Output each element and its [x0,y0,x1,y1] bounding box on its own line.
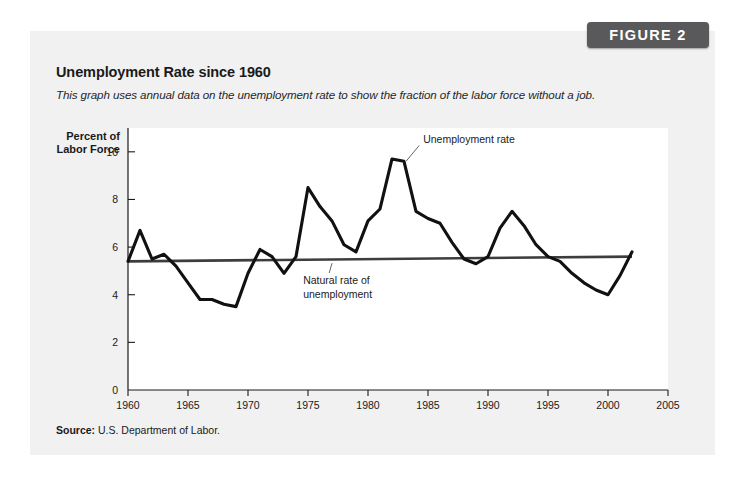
annotation-natural-rate-line1: Natural rate of [303,274,370,286]
x-tick-label-1965: 1965 [176,399,200,411]
x-tick-label-1985: 1985 [416,399,440,411]
x-tick-label-1960: 1960 [116,399,140,411]
x-tick-label-1970: 1970 [236,399,260,411]
y-axis-title-line1: Percent of [66,130,120,142]
unemployment-line-chart: 1960196519701975198019851990199520002005… [0,0,747,483]
x-tick-label-1975: 1975 [296,399,320,411]
x-tick-label-2000: 2000 [596,399,620,411]
y-tick-label-8: 8 [112,193,118,205]
x-tick-label-1995: 1995 [536,399,560,411]
x-tick-label-2005: 2005 [656,399,680,411]
y-axis-title-line2: Labor Force [56,143,120,155]
annotation-unemployment-rate: Unemployment rate [423,133,515,145]
y-tick-label-2: 2 [112,336,118,348]
y-tick-label-0: 0 [112,384,118,396]
chart-container: 1960196519701975198019851990199520002005… [0,0,747,483]
x-axis-ticks: 1960196519701975198019851990199520002005 [116,390,680,411]
y-tick-label-6: 6 [112,241,118,253]
x-tick-label-1990: 1990 [476,399,500,411]
figure-root: FIGURE 2 Unemployment Rate since 1960 Th… [0,0,747,483]
x-tick-label-1980: 1980 [356,399,380,411]
y-tick-label-4: 4 [112,289,118,301]
figure-badge: FIGURE 2 [587,22,709,48]
annotation-natural-rate-line2: unemployment [303,288,372,300]
